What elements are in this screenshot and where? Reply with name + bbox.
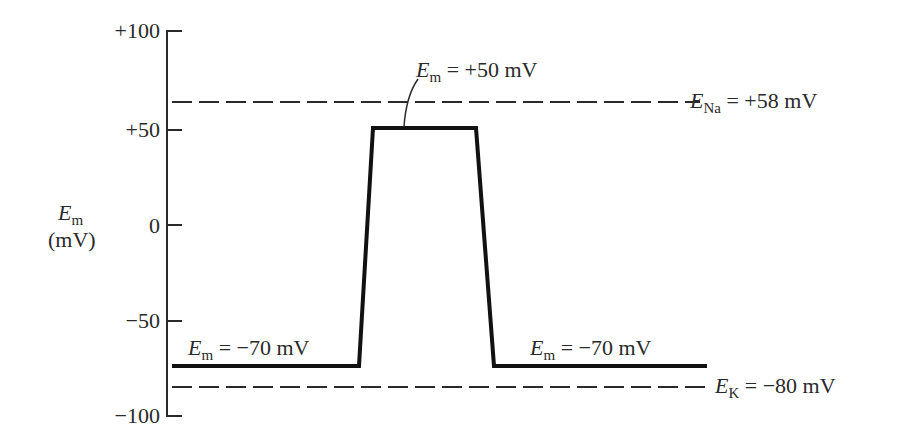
annotation-em-rest-left: Em = −70 mV (188, 337, 309, 363)
annotation-e-na: ENa = +58 mV (690, 90, 817, 116)
ytick-label-100: +100 (90, 20, 160, 42)
ytick-label-50: +50 (90, 119, 160, 141)
annotation-e-k: EK = −80 mV (715, 375, 836, 401)
em-trace (172, 128, 707, 366)
annotation-em-plus50: Em = +50 mV (416, 59, 537, 85)
ytick-label-0: 0 (90, 215, 160, 237)
ytick-label-neg50: −50 (90, 310, 160, 332)
ytick-label-neg100: −100 (90, 405, 160, 427)
y-axis-unit: (mV) (48, 229, 96, 251)
annotation-em-rest-right: Em = −70 mV (530, 337, 651, 363)
y-axis-label: Em (58, 202, 83, 228)
y-ticks (167, 31, 182, 416)
